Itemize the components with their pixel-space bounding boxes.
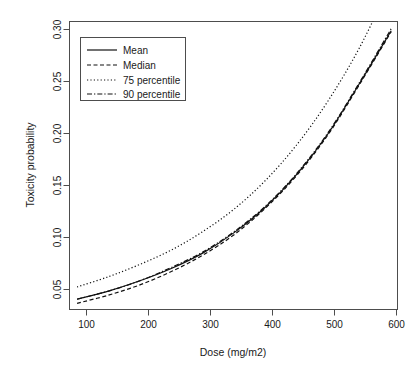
x-tick-label-0: 100 bbox=[78, 319, 95, 330]
legend-label-90-percentile: 90 percentile bbox=[123, 89, 181, 100]
y-tick-label-1: 0.10 bbox=[52, 227, 63, 247]
x-tick-label-4: 500 bbox=[326, 319, 343, 330]
y-tick-label-3: 0.20 bbox=[52, 123, 63, 143]
x-tick-label-1: 200 bbox=[140, 319, 157, 330]
x-axis-ticks bbox=[87, 310, 397, 316]
y-tick-label-0: 0.05 bbox=[52, 279, 63, 299]
y-axis-ticks bbox=[64, 30, 70, 290]
x-tick-label-3: 400 bbox=[264, 319, 281, 330]
y-tick-label-2: 0.15 bbox=[52, 175, 63, 195]
y-axis-title: Toxicity probability bbox=[24, 122, 36, 208]
y-tick-label-4: 0.25 bbox=[52, 71, 63, 91]
legend-label-75-percentile: 75 percentile bbox=[123, 75, 181, 86]
plot-canvas: 0.05 0.10 0.15 0.20 0.25 0.30 100 200 30… bbox=[0, 0, 418, 378]
y-tick-label-5: 0.30 bbox=[52, 19, 63, 39]
x-tick-label-5: 600 bbox=[388, 319, 405, 330]
x-axis-tick-labels: 100 200 300 400 500 600 bbox=[78, 319, 405, 330]
legend-label-mean: Mean bbox=[123, 45, 148, 56]
legend: Mean Median 75 percentile 90 percentile bbox=[81, 38, 186, 101]
legend-label-median: Median bbox=[123, 60, 156, 71]
x-axis-title: Dose (mg/m2) bbox=[200, 346, 267, 358]
y-axis-tick-labels: 0.05 0.10 0.15 0.20 0.25 0.30 bbox=[52, 19, 63, 299]
chart-figure: 0.05 0.10 0.15 0.20 0.25 0.30 100 200 30… bbox=[0, 0, 418, 378]
x-tick-label-2: 300 bbox=[202, 319, 219, 330]
